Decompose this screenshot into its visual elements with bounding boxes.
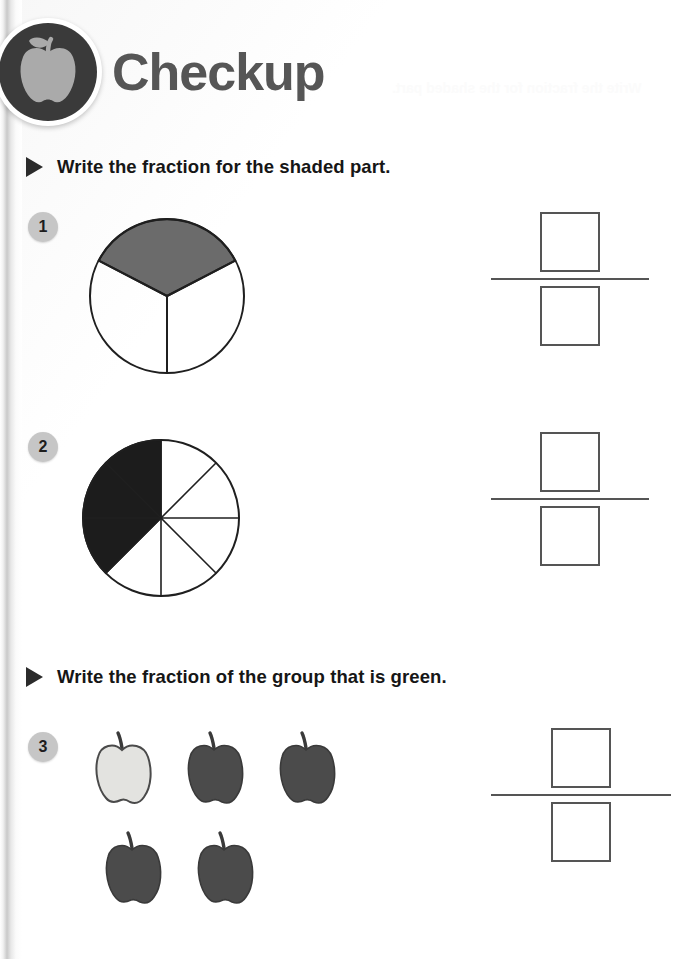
apple-item [260, 728, 352, 808]
fraction-bar-1 [491, 278, 649, 280]
numerator-box-1[interactable] [540, 212, 600, 272]
apple-icon-red [182, 728, 246, 808]
instruction-text: Write the fraction for the shaded part. [57, 156, 391, 178]
question-number-3: 3 [28, 732, 58, 762]
fraction-bar-2 [491, 498, 649, 500]
triangle-bullet-icon [26, 157, 43, 177]
triangle-bullet-icon [26, 667, 43, 687]
circle-thirds-figure [88, 216, 246, 380]
apple-row [86, 828, 352, 908]
instruction-shaded-part: Write the fraction for the shaded part. [26, 156, 391, 178]
numerator-box-2[interactable] [540, 432, 600, 492]
apple-item [76, 728, 168, 808]
circle-thirds-svg [88, 216, 246, 376]
apple-item [168, 728, 260, 808]
fraction-answer-3 [491, 728, 671, 862]
apple-icon [0, 18, 102, 126]
page-binding-edge [0, 0, 22, 959]
question-number-1: 1 [28, 212, 58, 242]
apple-row [76, 728, 352, 808]
apple-item [86, 828, 178, 908]
numerator-box-3[interactable] [551, 728, 611, 788]
fraction-answer-2 [491, 432, 649, 566]
apple-item [178, 828, 270, 908]
shaded-sector [99, 219, 235, 296]
denominator-box-3[interactable] [551, 802, 611, 862]
instruction-group-green: Write the fraction of the group that is … [26, 666, 447, 688]
apple-icon-green [90, 728, 154, 808]
apple-icon-red [100, 828, 164, 908]
apple-group-figure [76, 728, 352, 908]
instruction-text: Write the fraction of the group that is … [57, 666, 447, 688]
page-title: Checkup [112, 46, 325, 98]
denominator-box-2[interactable] [540, 506, 600, 566]
circle-eighths-svg [76, 432, 246, 604]
page-showthrough-text: Write the fraction for the shaded part. [392, 80, 641, 96]
worksheet-page: Checkup Write the fraction for the shade… [0, 0, 698, 959]
page-header: Checkup [0, 8, 420, 130]
apple-icon-red [274, 728, 338, 808]
fraction-bar-3 [491, 794, 671, 796]
denominator-box-1[interactable] [540, 286, 600, 346]
fraction-answer-1 [491, 212, 649, 346]
apple-icon-red [192, 828, 256, 908]
question-number-2: 2 [28, 432, 58, 462]
apple-icon-glyph [0, 23, 97, 121]
shaded-sector [83, 518, 161, 573]
circle-eighths-figure [76, 432, 246, 608]
